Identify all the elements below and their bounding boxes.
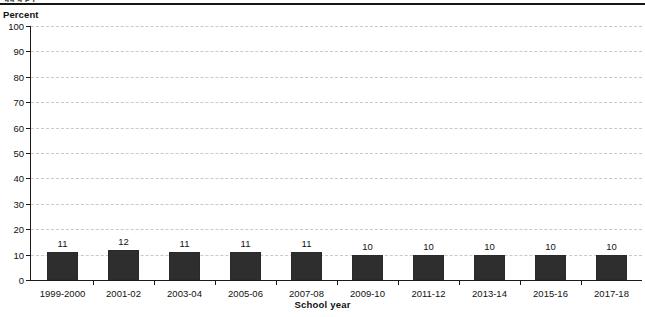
y-tick-label: 0 xyxy=(19,275,24,286)
y-tick-label: 20 xyxy=(13,224,24,235)
x-tick-mark xyxy=(276,281,277,285)
x-tick-label: 2003-04 xyxy=(167,288,202,299)
x-tick-label: 2007-08 xyxy=(289,288,324,299)
y-tick-label: 30 xyxy=(13,198,24,209)
bar-value-label: 11 xyxy=(241,238,251,249)
top-rule xyxy=(0,3,645,5)
y-tick-label: 60 xyxy=(13,122,24,133)
x-tick-mark xyxy=(520,281,521,285)
y-tick-mark xyxy=(26,204,30,205)
gridline xyxy=(31,229,642,230)
bar xyxy=(596,255,627,280)
gridline xyxy=(31,26,642,27)
x-tick-label: 2005-06 xyxy=(228,288,263,299)
bar xyxy=(474,255,505,280)
y-tick-mark xyxy=(26,153,30,154)
y-tick-mark xyxy=(26,26,30,27)
bar xyxy=(352,255,383,280)
y-tick-label: 10 xyxy=(13,249,24,260)
gridline xyxy=(31,204,642,205)
bar-value-label: 12 xyxy=(118,236,129,247)
x-tick-mark xyxy=(398,281,399,285)
y-tick-mark xyxy=(26,77,30,78)
gridline xyxy=(31,77,642,78)
x-tick-label: 2011-12 xyxy=(411,288,445,299)
bar xyxy=(413,255,444,280)
x-tick-label: 1999-2000 xyxy=(40,288,85,299)
bar-value-label: 11 xyxy=(58,238,68,249)
bar-value-label: 11 xyxy=(302,238,312,249)
y-tick-label: 40 xyxy=(13,173,24,184)
gridline xyxy=(31,128,642,129)
y-tick-mark xyxy=(26,255,30,256)
bar xyxy=(535,255,566,280)
x-tick-mark xyxy=(215,281,216,285)
x-tick-mark xyxy=(154,281,155,285)
bar xyxy=(230,252,261,280)
x-axis-title: School year xyxy=(0,299,645,310)
x-tick-mark xyxy=(581,281,582,285)
gridline xyxy=(31,153,642,154)
bar xyxy=(47,252,78,280)
y-tick-label: 80 xyxy=(13,71,24,82)
gridline xyxy=(31,102,642,103)
bar-value-label: 10 xyxy=(423,241,434,252)
plot-area: 0102030405060708090100 11121111111010101… xyxy=(30,26,642,281)
y-tick-label: 70 xyxy=(13,97,24,108)
bar-value-label: 10 xyxy=(362,241,373,252)
x-tick-label: 2015-16 xyxy=(533,288,568,299)
bar-value-label: 10 xyxy=(606,241,617,252)
chart-figure: gg g p j Percent 0102030405060708090100 … xyxy=(0,0,645,317)
y-axis-title: Percent xyxy=(3,9,39,20)
bar xyxy=(169,252,200,280)
x-tick-label: 2009-10 xyxy=(350,288,385,299)
y-tick-mark xyxy=(26,229,30,230)
cut-off-caption: gg g p j xyxy=(4,0,624,2)
bar-value-label: 10 xyxy=(545,241,556,252)
x-axis-line xyxy=(30,280,642,281)
y-tick-mark xyxy=(26,128,30,129)
bar-value-label: 11 xyxy=(180,238,190,249)
y-tick-mark xyxy=(26,280,30,281)
gridline xyxy=(31,178,642,179)
y-tick-label: 50 xyxy=(13,148,24,159)
bar xyxy=(108,250,139,280)
y-tick-label: 90 xyxy=(13,46,24,57)
x-tick-mark xyxy=(459,281,460,285)
bar-value-label: 10 xyxy=(484,241,495,252)
gridline xyxy=(31,51,642,52)
bar xyxy=(291,252,322,280)
x-tick-label: 2017-18 xyxy=(594,288,629,299)
y-tick-mark xyxy=(26,51,30,52)
y-tick-mark xyxy=(26,102,30,103)
x-tick-label: 2013-14 xyxy=(472,288,507,299)
y-tick-mark xyxy=(26,178,30,179)
x-tick-label: 2001-02 xyxy=(106,288,141,299)
x-tick-mark xyxy=(93,281,94,285)
x-tick-mark xyxy=(337,281,338,285)
y-tick-label: 100 xyxy=(8,21,24,32)
